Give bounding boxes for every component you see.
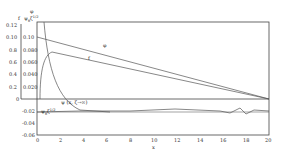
svg-text:0.2: 0.2 [9, 84, 17, 90]
svg-text:0: 0 [36, 137, 39, 143]
inner-y-ticks: 0.10 0.080 0.060 0.040 0.020 -0.02 -0.04… [22, 34, 37, 138]
svg-text:6: 6 [105, 137, 108, 143]
svg-text:4: 4 [82, 137, 85, 143]
chart: 0.12 0.10 0.8 0.6 0.4 0.2 0 0.10 0.080 0… [0, 0, 283, 153]
series-psi-theta [37, 108, 269, 114]
svg-text:8: 8 [129, 137, 132, 143]
axis-header-f: f [18, 15, 21, 21]
svg-text:16: 16 [220, 137, 226, 143]
svg-text:0.060: 0.060 [23, 59, 37, 65]
svg-text:-0.02: -0.02 [22, 108, 35, 114]
outer-y-ticks: 0.12 0.10 0.8 0.6 0.4 0.2 0 [6, 22, 19, 102]
svg-text:0: 0 [16, 96, 19, 102]
svg-text:-0.06: -0.06 [22, 132, 35, 138]
svg-text:0.020: 0.020 [23, 84, 37, 90]
svg-text:12: 12 [174, 137, 180, 143]
svg-text:-0.04: -0.04 [22, 120, 35, 126]
plot-frame [37, 22, 269, 135]
svg-text:10: 10 [151, 137, 157, 143]
label-psi-inf: ψ (x, ζ→∞) [61, 99, 88, 106]
svg-text:0.040: 0.040 [23, 71, 37, 77]
svg-text:18: 18 [243, 137, 249, 143]
svg-text:0.080: 0.080 [23, 47, 37, 53]
svg-text:0.6: 0.6 [9, 59, 17, 65]
axis-header-phi: φ [30, 8, 34, 15]
label-phi: φ [103, 42, 107, 49]
svg-text:0.10: 0.10 [23, 34, 34, 40]
svg-text:2: 2 [59, 137, 62, 143]
svg-text:0.12: 0.12 [6, 22, 17, 28]
axis-header-psi: ψθζ1/2 [24, 15, 38, 23]
label-psi-theta: ψθζ1/2 [41, 108, 55, 116]
svg-text:0.4: 0.4 [9, 71, 17, 77]
x-axis-label: x [152, 144, 155, 150]
svg-text:0.8: 0.8 [9, 47, 17, 53]
svg-text:20: 20 [265, 137, 271, 143]
svg-text:0.10: 0.10 [6, 34, 17, 40]
series-f [40, 52, 269, 99]
svg-text:14: 14 [197, 137, 203, 143]
series-phi [37, 37, 269, 99]
x-ticks: 0 2 4 6 8 10 12 14 16 18 20 [36, 137, 271, 143]
